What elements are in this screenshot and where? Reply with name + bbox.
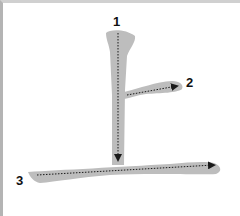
stroke-order-diagram bbox=[0, 0, 240, 216]
stroke-1-number: 1 bbox=[113, 15, 120, 28]
stroke-1-shape bbox=[106, 30, 135, 165]
stroke-3-shape bbox=[28, 162, 220, 183]
stroke-3-number: 3 bbox=[16, 174, 23, 187]
stroke-2-shape bbox=[124, 81, 183, 99]
stroke-2-number: 2 bbox=[186, 76, 193, 89]
